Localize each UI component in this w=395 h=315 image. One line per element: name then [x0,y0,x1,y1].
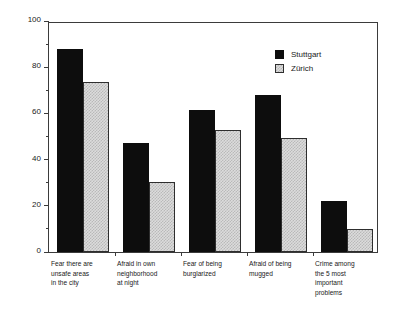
y-tick-mark [44,159,49,160]
x-tick-separator [115,252,116,256]
x-category-label-line: the 5 most [315,269,377,279]
y-tick-mark [46,228,49,229]
bar-zurich-5 [347,229,373,252]
x-category-label-line: important [315,278,377,288]
x-category-label-line: Afraid in own [117,259,179,269]
y-tick-label: 80 [32,61,41,70]
bar-stuttgart-1 [57,49,83,252]
y-tick-mark [46,136,49,137]
y-tick-label: 40 [32,154,41,163]
bar-zurich-3 [215,130,241,252]
x-category-label-1: Fear there areunsafe areasin the city [51,259,113,288]
x-category-label-4: Afraid of beingmugged [249,259,311,278]
plot-area: Percent 020406080100 Stuttgart Zürich [48,22,378,253]
x-category-label-line: Afraid of being [249,259,311,269]
x-category-label-line: unsafe areas [51,269,113,279]
x-category-label-3: Fear of beingburglarized [183,259,245,278]
y-tick-mark [44,67,49,68]
y-tick-label: 20 [32,200,41,209]
legend-item-stuttgart: Stuttgart [275,47,321,61]
y-tick-mark [46,90,49,91]
y-tick-mark [46,182,49,183]
bar-zurich-2 [149,182,175,252]
x-category-label-2: Afraid in ownneighborhoodat night [117,259,179,288]
x-category-label-line: Crime among [315,259,377,269]
legend-label-stuttgart: Stuttgart [291,50,321,59]
y-tick-mark [44,113,49,114]
y-tick-label: 0 [37,246,41,255]
y-tick-label: 100 [28,15,41,24]
legend-swatch-icon-zurich [275,64,284,73]
x-category-label-line: Fear there are [51,259,113,269]
bar-stuttgart-4 [255,95,281,252]
x-tick-separator [313,252,314,256]
legend-item-zurich: Zürich [275,61,321,75]
x-category-label-5: Crime amongthe 5 mostimportantproblems [315,259,377,297]
x-tick-separator [247,252,248,256]
x-category-label-line: Fear of being [183,259,245,269]
legend: Stuttgart Zürich [275,47,321,75]
x-category-label-line: at night [117,278,179,288]
bar-stuttgart-5 [321,201,347,252]
bar-stuttgart-3 [189,110,215,252]
y-tick-mark [44,252,49,253]
legend-label-zurich: Zürich [291,64,313,73]
y-tick-mark [44,205,49,206]
x-category-label-line: problems [315,288,377,298]
y-tick-label: 60 [32,107,41,116]
y-tick-mark [46,44,49,45]
y-tick-mark [44,21,49,22]
x-category-label-line: neighborhood [117,269,179,279]
legend-swatch-icon-stuttgart [275,50,284,59]
bar-stuttgart-2 [123,143,149,252]
x-category-label-line: mugged [249,269,311,279]
bar-zurich-4 [281,138,307,252]
x-category-label-line: burglarized [183,269,245,279]
bar-chart: Percent 020406080100 Stuttgart Zürich Fe… [0,0,395,315]
x-category-label-line: in the city [51,278,113,288]
x-tick-separator [181,252,182,256]
bar-zurich-1 [83,82,109,252]
